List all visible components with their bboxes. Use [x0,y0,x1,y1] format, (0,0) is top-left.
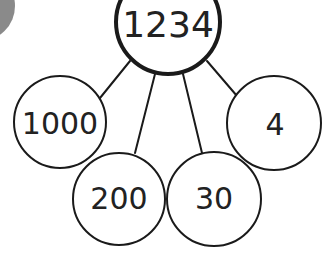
part-label-ones: 4 [265,107,284,142]
connector-to-thousands [100,61,130,98]
part-whole-diagram: 1234 1000 4 200 30 [0,0,323,255]
part-label-tens: 30 [195,181,233,216]
connector-to-tens [183,74,202,153]
whole-label: 1234 [122,4,214,45]
decorative-grey-shape [0,0,15,41]
connector-to-ones [207,61,237,96]
whole-node: 1234 [116,0,220,74]
part-node-ones: 4 [227,76,321,170]
part-label-thousands: 1000 [22,106,98,141]
part-node-tens: 30 [167,152,261,246]
connector-to-hundreds [135,74,155,153]
part-node-hundreds: 200 [73,153,165,245]
part-label-hundreds: 200 [90,181,147,216]
part-node-thousands: 1000 [14,76,106,168]
